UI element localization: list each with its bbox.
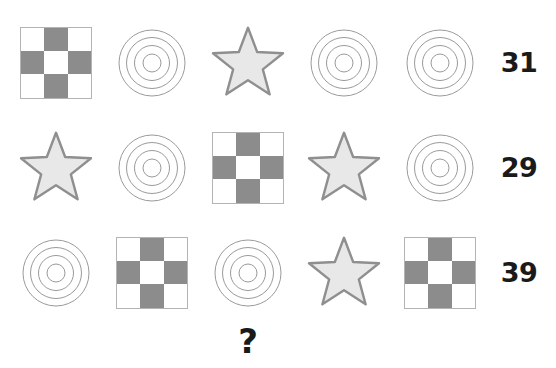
question-mark: ? — [238, 324, 258, 358]
row-sum: 39 — [488, 220, 550, 325]
checker-square — [140, 238, 163, 261]
puzzle-cell — [104, 220, 200, 325]
checker-square — [44, 28, 67, 51]
checker-square — [260, 156, 283, 179]
row-sum: 31 — [488, 10, 550, 115]
concentric-circles-icon — [400, 128, 480, 208]
checker-square — [405, 261, 428, 284]
star-icon — [304, 128, 384, 208]
concentric-circles-icon — [208, 233, 288, 313]
checker-square — [117, 284, 140, 307]
puzzle-cell — [296, 115, 392, 220]
puzzle-cell — [392, 10, 488, 115]
checker-square — [213, 133, 236, 156]
row-sum-value: 39 — [501, 259, 538, 286]
checker-square — [44, 74, 67, 97]
concentric-circles-icon — [112, 23, 192, 103]
checker-square — [236, 133, 259, 156]
star-icon — [208, 23, 288, 103]
question-row: ? — [0, 318, 556, 364]
checker-square — [117, 238, 140, 261]
checker-square — [452, 284, 475, 307]
puzzle-cell — [200, 220, 296, 325]
unknown-answer-slot: ? — [200, 318, 296, 364]
checker-square — [164, 238, 187, 261]
checker-square — [21, 74, 44, 97]
checker-square — [44, 51, 67, 74]
checker-square — [164, 261, 187, 284]
checker-square — [140, 261, 163, 284]
checkerboard-icon — [212, 132, 284, 204]
puzzle-cell — [296, 10, 392, 115]
checker-square — [236, 179, 259, 202]
checker-square — [428, 261, 451, 284]
checker-square — [260, 133, 283, 156]
checker-square — [260, 179, 283, 202]
puzzle-cell — [296, 220, 392, 325]
puzzle-board: 31 29 39 ? — [0, 0, 556, 368]
star-icon — [16, 128, 96, 208]
puzzle-cell — [200, 115, 296, 220]
puzzle-row: 39 — [0, 220, 556, 325]
concentric-circles-icon — [400, 23, 480, 103]
puzzle-cell — [200, 10, 296, 115]
checker-square — [21, 51, 44, 74]
row-sum-value: 31 — [501, 49, 538, 76]
checkerboard-icon — [20, 27, 92, 99]
checker-square — [117, 261, 140, 284]
checker-square — [68, 28, 91, 51]
checker-square — [236, 156, 259, 179]
checkerboard-icon — [116, 237, 188, 309]
checker-square — [405, 284, 428, 307]
checker-square — [405, 238, 428, 261]
puzzle-cell — [8, 115, 104, 220]
checker-square — [21, 28, 44, 51]
concentric-circles-icon — [304, 23, 384, 103]
checker-square — [213, 179, 236, 202]
puzzle-cell — [104, 115, 200, 220]
row-sum-value: 29 — [501, 154, 538, 181]
row-sum: 29 — [488, 115, 550, 220]
checker-square — [68, 74, 91, 97]
star-icon — [304, 233, 384, 313]
checker-square — [213, 156, 236, 179]
puzzle-cell — [392, 115, 488, 220]
checker-square — [164, 284, 187, 307]
puzzle-cell — [392, 220, 488, 325]
puzzle-cell — [104, 10, 200, 115]
checkerboard-icon — [404, 237, 476, 309]
puzzle-cell — [8, 10, 104, 115]
puzzle-cell — [8, 220, 104, 325]
checker-square — [452, 238, 475, 261]
checker-square — [428, 284, 451, 307]
checker-square — [140, 284, 163, 307]
checker-square — [452, 261, 475, 284]
puzzle-row: 31 — [0, 10, 556, 115]
concentric-circles-icon — [112, 128, 192, 208]
checker-square — [68, 51, 91, 74]
concentric-circles-icon — [16, 233, 96, 313]
checker-square — [428, 238, 451, 261]
puzzle-row: 29 — [0, 115, 556, 220]
